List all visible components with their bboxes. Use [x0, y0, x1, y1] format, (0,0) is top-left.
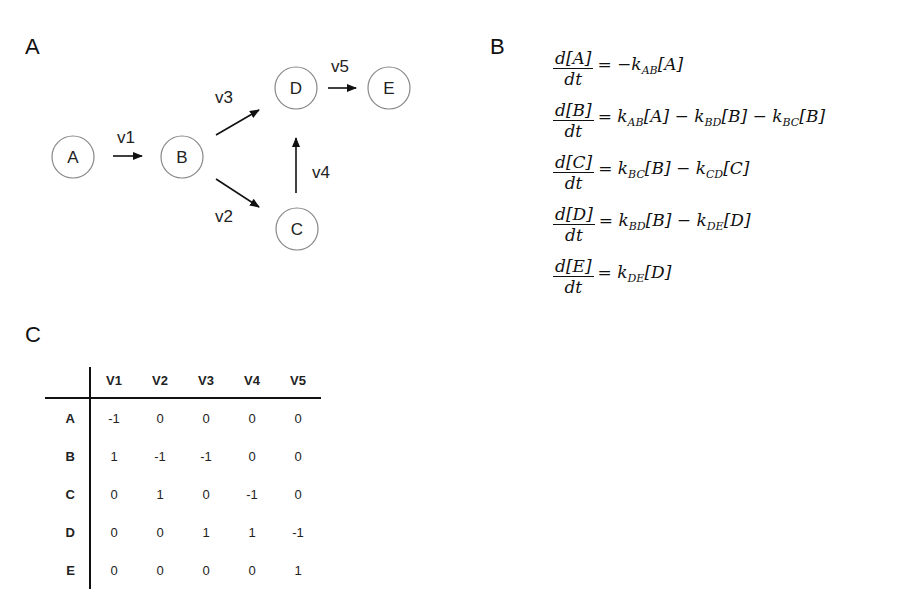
- equation-rhs: = kBC[B] − kCD[C]: [598, 158, 749, 185]
- matrix-cell: 0: [90, 513, 137, 551]
- denominator: dt: [565, 173, 583, 193]
- equation-term: [B]: [799, 106, 825, 126]
- edge-v4: v4: [296, 138, 330, 193]
- rate-constant-subscript: DE: [707, 221, 724, 234]
- matrix-cell: 0: [183, 475, 229, 513]
- denominator: dt: [564, 121, 582, 141]
- row-header: E: [45, 551, 90, 589]
- matrix-cell: 0: [275, 437, 321, 475]
- rate-constant-subscript: BC: [628, 169, 645, 182]
- equation-d: d[D]dt= kBD[B] − kDE[D]: [553, 198, 825, 250]
- matrix-cell: 0: [275, 398, 321, 437]
- edge-label-v4: v4: [312, 163, 330, 182]
- edge-v1: v1: [113, 128, 142, 156]
- rate-constant-subscript: CD: [706, 169, 723, 182]
- equation-b: d[B]dt= kAB[A] − kBD[B] − kBC[B]: [553, 94, 825, 146]
- matrix-cell: -1: [90, 398, 137, 437]
- derivative-fraction: d[D]dt: [553, 204, 595, 245]
- equation-term: [A] − k: [644, 106, 705, 126]
- node-c: C: [276, 208, 318, 250]
- table-row: D0011-1: [45, 513, 321, 551]
- derivative-fraction: d[A]dt: [553, 48, 593, 89]
- equation-term: [D]: [724, 210, 751, 230]
- equation-c: d[C]dt= kBC[B] − kCD[C]: [553, 146, 825, 198]
- matrix-corner: [45, 367, 90, 398]
- row-header: A: [45, 398, 90, 437]
- matrix-header-row: V1 V2 V3 V4 V5: [45, 367, 321, 398]
- equation-term: [D]: [644, 262, 671, 282]
- equation-rhs: = −kAB[A]: [597, 54, 683, 81]
- column-header-v1: V1: [90, 367, 137, 398]
- edge-label-v1: v1: [117, 128, 135, 147]
- derivative-fraction: d[B]dt: [553, 100, 594, 141]
- matrix-cell: 0: [90, 475, 137, 513]
- equation-term: = k: [598, 158, 628, 178]
- equation-term: = k: [598, 262, 628, 282]
- rate-constant-subscript: BC: [783, 117, 800, 130]
- equation-rhs: = kDE[D]: [598, 262, 672, 289]
- node-label-e: E: [383, 79, 394, 98]
- matrix-cell: 0: [229, 551, 275, 589]
- matrix-cell: 1: [229, 513, 275, 551]
- node-e: E: [368, 67, 410, 109]
- matrix-cell: -1: [183, 437, 229, 475]
- edge-v2: v2: [215, 179, 259, 226]
- rate-constant-subscript: AB: [628, 117, 644, 130]
- matrix-cell: 0: [183, 551, 229, 589]
- rate-constant-subscript: AB: [642, 65, 658, 78]
- matrix-cell: 1: [137, 475, 183, 513]
- equation-rhs: = kAB[A] − kBD[B] − kBC[B]: [598, 106, 825, 133]
- matrix-cell: 1: [275, 551, 321, 589]
- matrix-cell: 1: [183, 513, 229, 551]
- matrix-cell: 0: [137, 398, 183, 437]
- equation-e: d[E]dt= kDE[D]: [553, 250, 825, 302]
- table-row: B1-1-100: [45, 437, 321, 475]
- row-header: D: [45, 513, 90, 551]
- stoichiometry-matrix: V1 V2 V3 V4 V5 A-10000B1-1-100C010-10D00…: [45, 367, 321, 589]
- numerator: d[E]: [553, 256, 594, 276]
- equation-term: [B] − k: [721, 106, 782, 126]
- matrix-cell: -1: [229, 475, 275, 513]
- edge-v5: v5: [328, 57, 356, 88]
- column-header-v2: V2: [137, 367, 183, 398]
- numerator: d[D]: [553, 204, 595, 224]
- matrix-cell: 0: [137, 513, 183, 551]
- equation-term: [B] − k: [645, 158, 706, 178]
- edge-label-v2: v2: [215, 207, 233, 226]
- table-row: C010-10: [45, 475, 321, 513]
- rate-constant-subscript: BD: [705, 117, 722, 130]
- node-label-c: C: [291, 220, 303, 239]
- matrix-cell: 0: [229, 437, 275, 475]
- numerator: d[C]: [553, 152, 594, 172]
- reaction-network-diagram: v1 v2 v3 v4 v5 A B C D E: [0, 0, 460, 280]
- column-header-v3: V3: [183, 367, 229, 398]
- row-header: C: [45, 475, 90, 513]
- equation-term: = −k: [597, 54, 641, 74]
- derivative-fraction: d[C]dt: [553, 152, 594, 193]
- equation-rhs: = kBD[B] − kDE[D]: [599, 210, 751, 237]
- equation-a: d[A]dt= −kAB[A]: [553, 42, 825, 94]
- equation-term: = k: [599, 210, 629, 230]
- rate-constant-subscript: DE: [628, 273, 645, 286]
- panel-label-b: B: [490, 34, 505, 60]
- numerator: d[A]: [553, 48, 593, 68]
- edge-label-v3: v3: [215, 88, 233, 107]
- matrix-cell: -1: [137, 437, 183, 475]
- matrix-cell: 1: [90, 437, 137, 475]
- column-header-v4: V4: [229, 367, 275, 398]
- row-header: B: [45, 437, 90, 475]
- node-label-b: B: [176, 148, 187, 167]
- matrix-cell: 0: [275, 475, 321, 513]
- node-a: A: [52, 136, 94, 178]
- node-label-d: D: [290, 79, 302, 98]
- edge-v3: v3: [215, 88, 259, 135]
- matrix-cell: 0: [183, 398, 229, 437]
- equation-term: [C]: [723, 158, 749, 178]
- node-label-a: A: [67, 148, 79, 167]
- numerator: d[B]: [553, 100, 594, 120]
- panel-label-c: C: [25, 322, 41, 348]
- equation-term: [B] − k: [646, 210, 707, 230]
- rate-constant-subscript: BD: [629, 221, 646, 234]
- matrix-cell: 0: [90, 551, 137, 589]
- matrix-cell: 0: [137, 551, 183, 589]
